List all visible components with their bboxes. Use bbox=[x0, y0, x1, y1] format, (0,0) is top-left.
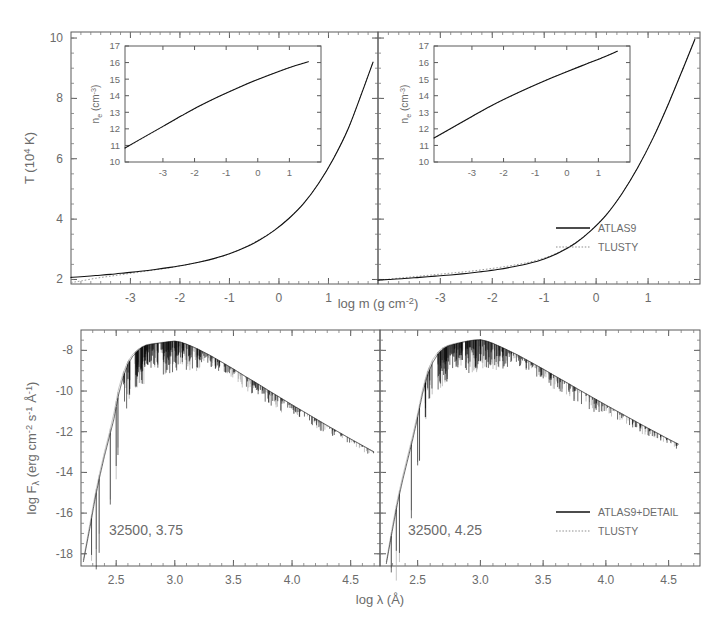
svg-text:1: 1 bbox=[287, 167, 292, 178]
svg-text:11: 11 bbox=[110, 140, 120, 151]
svg-text:17: 17 bbox=[418, 40, 429, 51]
svg-text:3.0: 3.0 bbox=[472, 573, 489, 587]
svg-text:3.5: 3.5 bbox=[225, 573, 242, 587]
svg-text:-16: -16 bbox=[56, 506, 74, 520]
wavelength-axis-label: log λ (Å) bbox=[356, 592, 404, 607]
svg-text:-1: -1 bbox=[539, 291, 550, 305]
svg-text:-18: -18 bbox=[56, 547, 74, 561]
svg-text:11: 11 bbox=[419, 140, 429, 151]
svg-text:2.5: 2.5 bbox=[409, 573, 426, 587]
legend-label-tlusty: TLUSTY bbox=[598, 241, 638, 253]
flux-axis-label: log Fλ (erg cm-2 s-1 Å-1) bbox=[24, 382, 41, 515]
svg-text:4.5: 4.5 bbox=[660, 573, 677, 587]
figure-canvas: -3-2-101246810-3-2-1011011121314151617ne… bbox=[0, 0, 719, 627]
panel-annotation: 32500, 4.25 bbox=[408, 522, 482, 538]
svg-text:12: 12 bbox=[418, 123, 429, 134]
svg-text:3.0: 3.0 bbox=[166, 573, 183, 587]
inset-electron-density bbox=[125, 46, 321, 162]
svg-text:2.5: 2.5 bbox=[108, 573, 125, 587]
svg-text:8: 8 bbox=[56, 91, 63, 105]
svg-text:-2: -2 bbox=[499, 167, 507, 178]
legend-label-atlas9: ATLAS9 bbox=[598, 222, 636, 234]
svg-text:-2: -2 bbox=[190, 167, 198, 178]
svg-text:0: 0 bbox=[276, 291, 283, 305]
inset-electron-density bbox=[434, 46, 630, 162]
temperature-axis-label: T (104 K) bbox=[22, 132, 38, 184]
svg-text:10: 10 bbox=[418, 156, 429, 167]
svg-text:-2: -2 bbox=[487, 291, 498, 305]
svg-text:-1: -1 bbox=[222, 167, 230, 178]
svg-text:17: 17 bbox=[109, 40, 120, 51]
svg-text:15: 15 bbox=[418, 74, 429, 85]
svg-text:6: 6 bbox=[56, 152, 63, 166]
svg-text:14: 14 bbox=[109, 90, 120, 101]
svg-text:13: 13 bbox=[418, 107, 429, 118]
svg-text:-12: -12 bbox=[56, 425, 74, 439]
figure-root: -3-2-101246810-3-2-1011011121314151617ne… bbox=[0, 0, 719, 627]
svg-text:-3: -3 bbox=[435, 291, 446, 305]
svg-text:15: 15 bbox=[109, 74, 120, 85]
svg-text:3.5: 3.5 bbox=[535, 573, 552, 587]
legend-label-atlas9-detail: ATLAS9+DETAIL bbox=[598, 506, 679, 518]
svg-text:2: 2 bbox=[56, 272, 63, 286]
svg-text:-3: -3 bbox=[159, 167, 167, 178]
svg-text:4.0: 4.0 bbox=[598, 573, 615, 587]
svg-text:1: 1 bbox=[325, 291, 332, 305]
svg-text:4.5: 4.5 bbox=[342, 573, 359, 587]
svg-text:-1: -1 bbox=[531, 167, 539, 178]
svg-text:4: 4 bbox=[56, 212, 63, 226]
svg-text:-3: -3 bbox=[468, 167, 476, 178]
svg-text:0: 0 bbox=[593, 291, 600, 305]
svg-text:16: 16 bbox=[109, 57, 120, 68]
svg-text:-8: -8 bbox=[62, 343, 73, 357]
panel-annotation: 32500, 3.75 bbox=[109, 522, 183, 538]
svg-text:12: 12 bbox=[109, 123, 120, 134]
svg-text:1: 1 bbox=[596, 167, 601, 178]
svg-text:-1: -1 bbox=[224, 291, 235, 305]
svg-text:4.0: 4.0 bbox=[284, 573, 301, 587]
svg-text:-14: -14 bbox=[56, 465, 74, 479]
svg-text:10: 10 bbox=[50, 31, 64, 45]
svg-text:10: 10 bbox=[109, 156, 120, 167]
svg-text:-10: -10 bbox=[56, 384, 74, 398]
legend-label-tlusty: TLUSTY bbox=[598, 525, 638, 537]
svg-text:1: 1 bbox=[645, 291, 652, 305]
svg-text:14: 14 bbox=[418, 90, 429, 101]
svg-text:-2: -2 bbox=[175, 291, 186, 305]
svg-text:13: 13 bbox=[109, 107, 120, 118]
svg-text:0: 0 bbox=[255, 167, 260, 178]
svg-text:-3: -3 bbox=[125, 291, 136, 305]
svg-text:0: 0 bbox=[564, 167, 569, 178]
svg-text:16: 16 bbox=[418, 57, 429, 68]
